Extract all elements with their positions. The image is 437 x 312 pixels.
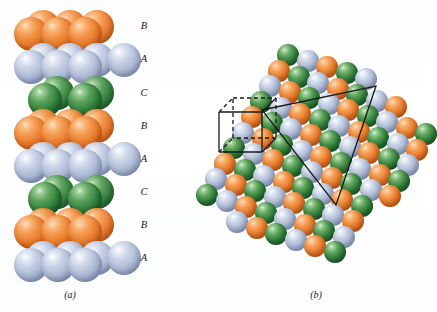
layer-label-1: A — [136, 54, 152, 65]
layer-label-6: B — [136, 220, 152, 231]
panel-b-cluster — [185, 28, 425, 278]
layer-label-4: A — [136, 154, 152, 165]
caption-panel-a: (a) — [60, 289, 80, 300]
sphere-cluster — [185, 28, 425, 278]
layer-label-3: B — [136, 121, 152, 132]
layer-a-7 — [0, 241, 150, 283]
cluster-sphere — [304, 235, 326, 257]
layer-label-2: C — [136, 88, 152, 99]
cluster-sphere — [324, 241, 346, 263]
layer-label-5: C — [136, 187, 152, 198]
layer-label-7: A — [136, 253, 152, 264]
cluster-sphere — [379, 185, 401, 207]
cluster-sphere — [196, 184, 218, 206]
layer-label-0: B — [136, 21, 152, 32]
caption-panel-b: (b) — [306, 289, 326, 300]
cluster-sphere — [226, 211, 248, 233]
cluster-sphere — [265, 223, 287, 245]
sphere-a-front — [68, 248, 102, 282]
panel-a-layer-stack — [0, 0, 150, 300]
